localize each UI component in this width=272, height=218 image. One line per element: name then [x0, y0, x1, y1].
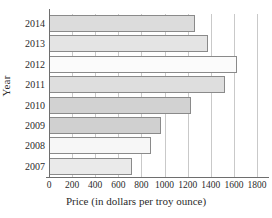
- x-axis-line: [46, 177, 269, 178]
- bar: [49, 117, 161, 134]
- y-tick-label: 2011: [25, 75, 45, 95]
- bar: [49, 35, 208, 52]
- gridline: [257, 14, 258, 177]
- x-tick-label: 1800: [242, 180, 272, 190]
- y-tick-label: 2009: [25, 116, 45, 136]
- bar: [49, 137, 151, 154]
- gridline: [234, 14, 235, 177]
- y-tick-label: 2014: [25, 14, 45, 34]
- gridline: [211, 14, 212, 177]
- x-axis-title: Price (in dollars per troy ounce): [0, 195, 272, 207]
- y-tick-label: 2007: [25, 157, 45, 177]
- bar: [49, 15, 195, 32]
- bar: [49, 56, 237, 73]
- bar: [49, 158, 132, 175]
- bar: [49, 76, 225, 93]
- plot-area: 20142013201220112010200920082007 0200400…: [49, 14, 257, 177]
- y-axis-title: Year: [0, 64, 12, 108]
- y-tick-label: 2010: [25, 96, 45, 116]
- y-tick-label: 2008: [25, 136, 45, 156]
- bar-chart: Year 20142013201220112010200920082007 02…: [0, 0, 272, 218]
- y-axis-line: [49, 9, 50, 177]
- y-tick-label: 2013: [25, 34, 45, 54]
- y-tick-label: 2012: [25, 55, 45, 75]
- bar: [49, 97, 191, 114]
